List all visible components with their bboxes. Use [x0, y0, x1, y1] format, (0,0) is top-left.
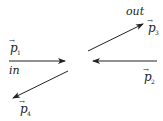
vector-arrow-mark: →: [147, 17, 153, 25]
vector-arrow-mark: →: [9, 37, 15, 45]
arrow-p3: [88, 24, 143, 51]
vector-arrow-mark: →: [19, 98, 25, 106]
label-out: out: [126, 5, 145, 18]
label-p4: p 4 →: [19, 98, 31, 117]
svg-text:3: 3: [155, 29, 159, 36]
arrow-p4: [13, 71, 68, 98]
svg-text:2: 2: [151, 78, 155, 85]
label-p2: p 2 →: [143, 66, 155, 85]
label-p3: p 3 →: [147, 17, 159, 36]
label-p1: p 1 →: [9, 37, 21, 56]
svg-text:4: 4: [27, 110, 31, 117]
svg-text:1: 1: [17, 49, 21, 56]
scattering-diagram: p 1 → in p 2 → p 3 → out p 4 →: [0, 0, 163, 121]
vector-arrow-mark: →: [143, 66, 149, 74]
label-in: in: [9, 64, 20, 77]
